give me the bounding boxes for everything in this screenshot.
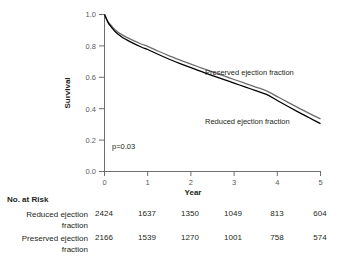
y-tick-label: 1.0 (86, 10, 96, 19)
risk-value: 1350 (175, 209, 205, 218)
risk-row-label-line2: fraction (5, 220, 88, 231)
risk-value: 604 (305, 209, 335, 218)
risk-value: 1637 (132, 209, 162, 218)
y-tick-label: 0.0 (86, 167, 96, 176)
x-tick-label: 1 (146, 178, 150, 187)
annotation-preserved-ejection-fraction: Preserved ejection fraction (205, 68, 294, 77)
risk-value: 758 (262, 233, 292, 242)
x-tick-label: 5 (318, 178, 322, 187)
y-axis-ticks (99, 15, 104, 172)
x-tick-label: 3 (232, 178, 236, 187)
risk-value: 1049 (218, 209, 248, 218)
survival-figure: 1.0 0.8 0.6 0.4 0.2 0.0 0 1 2 3 4 5 Year (0, 0, 342, 263)
x-tick-label: 0 (102, 178, 106, 187)
y-axis-tick-labels: 1.0 0.8 0.6 0.4 0.2 0.0 (86, 10, 96, 176)
x-tick-label: 2 (189, 178, 193, 187)
risk-value: 1001 (218, 233, 248, 242)
risk-value: 813 (262, 209, 292, 218)
y-tick-label: 0.8 (86, 42, 96, 51)
risk-row-values: 2424 1637 1350 1049 813 604 (88, 209, 342, 233)
risk-row-label-line2: fraction (5, 244, 88, 255)
risk-value: 2166 (89, 233, 119, 242)
y-tick-label: 0.2 (86, 136, 96, 145)
annotation-reduced-ejection-fraction: Reduced ejection fraction (205, 117, 290, 126)
risk-row-label-line1: Reduced ejection (26, 210, 88, 219)
risk-value: 1270 (175, 233, 205, 242)
y-axis-title: Survival (63, 77, 72, 108)
x-tick-label: 4 (275, 178, 279, 187)
x-axis-tick-labels: 0 1 2 3 4 5 (102, 178, 322, 187)
curve-preserved-ejection-fraction (105, 15, 321, 119)
y-tick-label: 0.6 (86, 73, 96, 82)
risk-row-label-line1: Preserved ejection (22, 234, 88, 243)
y-tick-label: 0.4 (86, 105, 96, 114)
risk-row-values: 2166 1539 1270 1001 758 574 (88, 233, 342, 257)
risk-table-title: No. at Risk (7, 195, 48, 204)
risk-row-label: Preserved ejection fraction (5, 233, 88, 255)
number-at-risk-table: No. at Risk Reduced ejection fraction 24… (0, 193, 342, 263)
p-value-annotation: p=0.03 (112, 142, 135, 151)
risk-value: 1539 (132, 233, 162, 242)
risk-value: 574 (305, 233, 335, 242)
risk-value: 2424 (89, 209, 119, 218)
risk-row-label: Reduced ejection fraction (5, 209, 88, 231)
